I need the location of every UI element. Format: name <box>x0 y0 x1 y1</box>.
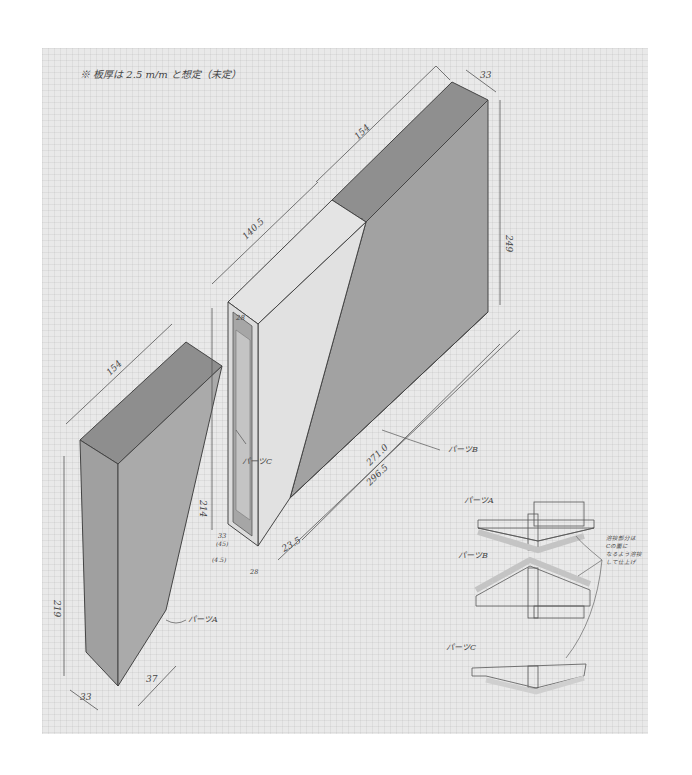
dim-height-b: 249 <box>504 234 514 252</box>
dim-length-b-inner: 271.0 <box>364 442 390 468</box>
label-part-b: パーツB <box>448 445 478 454</box>
dim-inner-c: 28 <box>235 314 245 322</box>
dim-height-c: 214 <box>198 499 208 517</box>
dim-height-a: 219 <box>52 599 62 617</box>
dim-base-a-left: 33 <box>80 692 92 702</box>
header-note: ※ 板厚は 2.5 m/m と想定（未定） <box>80 69 241 80</box>
label-part-a: パーツA <box>188 615 218 624</box>
label-part-c: パーツC <box>242 457 272 466</box>
section-views: パーツA パーツB パーツC 溶接部分は Cの面に なるよう溶接 して仕上げ <box>446 496 644 692</box>
section-label-c: パーツC <box>446 643 476 652</box>
isometric-sketch: ※ 板厚は 2.5 m/m と想定（未定） <box>0 0 692 775</box>
dim-top-width-b: 154 <box>352 122 372 141</box>
section-label-b: パーツB <box>458 551 488 560</box>
dim-top-length-c: 140.5 <box>240 216 266 241</box>
dim-depth-b: 33 <box>480 70 492 80</box>
dim-bottom-c-c: (4.5) <box>212 556 227 563</box>
dim-width-a: 154 <box>104 358 124 377</box>
section-annotation: 溶接部分は Cの面に なるよう溶接 して仕上げ <box>606 535 644 565</box>
dim-bottom-c-b: (45) <box>216 540 229 547</box>
section-label-a: パーツA <box>464 496 494 505</box>
dim-base-a-right: 37 <box>146 674 158 684</box>
dim-bottom-c-a: 33 <box>218 532 226 540</box>
dim-bottom-c-d: 28 <box>249 568 258 576</box>
dim-offset-b: 23.5 <box>279 535 302 554</box>
